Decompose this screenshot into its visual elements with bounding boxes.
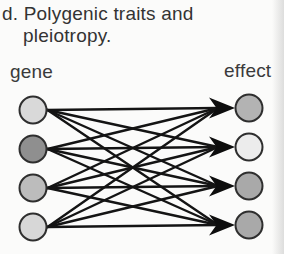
effect-4-node (236, 212, 263, 239)
gene-3-node (20, 175, 47, 202)
effect-3-node (236, 173, 263, 200)
edge-gene-4-effect-4 (48, 225, 219, 227)
gene-4-node (20, 214, 47, 241)
figure-polygenic-pleiotropy: d. Polygenic traits and pleiotropy. gene… (0, 0, 284, 254)
diagram-svg (0, 0, 284, 254)
effect-2-node (236, 134, 263, 161)
edge-gene-1-effect-1 (48, 108, 219, 110)
gene-1-node (20, 97, 47, 124)
gene-2-node (20, 136, 47, 163)
effect-1-node (236, 95, 263, 122)
